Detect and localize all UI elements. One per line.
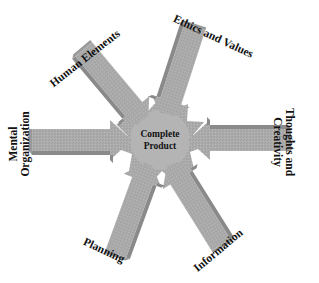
label-thoughts-creativity: Thoughts and Creativity	[272, 108, 296, 176]
center-label-line2: Product	[130, 140, 190, 152]
label-mental-organization: Mental Organization	[7, 111, 31, 176]
label-thoughts-line2: Creativity	[272, 108, 284, 176]
label-mental-line2: Organization	[19, 111, 31, 176]
complete-product-diagram: Complete Product Human Elements Ethics a…	[0, 0, 319, 283]
label-mental-line1: Mental	[7, 111, 19, 176]
center-label-line1: Complete	[130, 128, 190, 140]
center-label: Complete Product	[130, 128, 190, 152]
label-thoughts-line1: Thoughts and	[284, 108, 296, 176]
arrow-mental-organization	[29, 120, 132, 163]
